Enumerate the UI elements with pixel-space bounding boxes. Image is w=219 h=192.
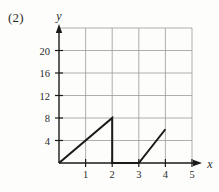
grid-lines (59, 28, 192, 163)
y-axis-label: y (55, 9, 62, 23)
x-tick-label: 4 (163, 169, 169, 180)
figure-panel: (2) (0, 0, 219, 192)
y-tick-label: 20 (40, 46, 51, 57)
x-tick-label: 5 (189, 169, 194, 180)
x-tick-label: 2 (110, 169, 115, 180)
y-tick-label: 4 (45, 136, 51, 147)
y-tick-label: 16 (40, 68, 51, 79)
x-tick-label: 1 (83, 169, 88, 180)
x-tick-label: 3 (136, 169, 141, 180)
graph-plot: 4 8 12 16 20 1 2 3 4 5 y x (0, 0, 219, 192)
x-axis-label: x (206, 157, 213, 171)
y-axis (56, 24, 62, 163)
y-tick-label: 12 (40, 91, 51, 102)
y-tick-label: 8 (45, 113, 50, 124)
